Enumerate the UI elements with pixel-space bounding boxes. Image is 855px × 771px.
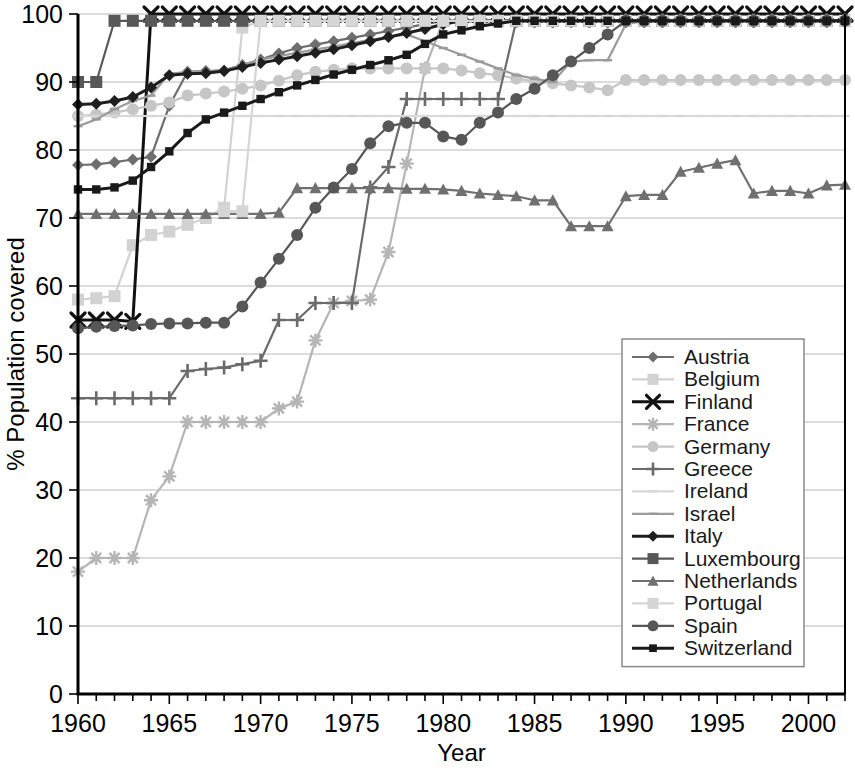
marker-switzerland: [366, 61, 374, 69]
marker-switzerland: [129, 176, 137, 184]
marker-luxembourg: [200, 15, 212, 27]
marker-germany: [784, 74, 796, 86]
marker-ireland: [530, 115, 539, 117]
marker-austria: [127, 154, 139, 166]
marker-portugal: [309, 15, 321, 27]
y-tick-label-20: 20: [35, 544, 63, 572]
marker-israel: [512, 74, 521, 76]
y-tick-label-70: 70: [35, 204, 63, 232]
marker-germany: [766, 74, 778, 86]
marker-greece: [473, 92, 487, 106]
marker-ireland: [329, 115, 338, 117]
chart-container: 196019651970197519801985199019952000 010…: [0, 0, 855, 771]
marker-switzerland: [530, 17, 538, 25]
marker-ireland: [256, 115, 265, 117]
marker-ireland: [603, 115, 612, 117]
marker-germany: [693, 74, 705, 86]
marker-switzerland: [256, 95, 264, 103]
marker-italy: [346, 39, 358, 51]
legend-marker-france: [647, 418, 660, 431]
marker-spain: [309, 202, 321, 214]
marker-ireland: [347, 115, 356, 117]
marker-germany: [456, 64, 468, 76]
marker-israel: [147, 94, 156, 96]
marker-luxembourg: [163, 15, 175, 27]
marker-germany: [145, 100, 157, 112]
marker-belgium: [109, 290, 121, 302]
marker-germany: [255, 79, 267, 91]
marker-netherlands: [729, 154, 741, 165]
marker-france: [162, 469, 176, 483]
marker-switzerland: [403, 51, 411, 59]
marker-luxembourg: [127, 15, 139, 27]
marker-portugal: [346, 15, 358, 27]
y-axis-title: % Population covered: [2, 237, 29, 470]
y-tick-label-80: 80: [35, 136, 63, 164]
marker-france: [363, 293, 377, 307]
x-tick-label-1980: 1980: [415, 709, 471, 737]
marker-switzerland: [329, 70, 337, 78]
marker-germany: [802, 74, 814, 86]
marker-switzerland: [603, 17, 611, 25]
x-axis-title: Year: [437, 739, 486, 766]
marker-spain: [547, 69, 559, 81]
marker-germany: [401, 62, 413, 74]
marker-switzerland: [512, 17, 520, 25]
marker-switzerland: [348, 66, 356, 74]
marker-israel: [530, 77, 539, 79]
marker-germany: [638, 74, 650, 86]
marker-france: [254, 415, 268, 429]
marker-spain: [90, 321, 102, 333]
marker-france: [381, 245, 395, 259]
marker-germany: [218, 86, 230, 98]
marker-belgium: [90, 292, 102, 304]
marker-france: [89, 551, 103, 565]
legend-label-finland: Finland: [684, 390, 753, 413]
marker-germany: [200, 88, 212, 100]
marker-italy: [200, 67, 212, 79]
marker-germany: [583, 81, 595, 93]
marker-ireland: [311, 115, 320, 117]
marker-belgium: [163, 226, 175, 238]
marker-spain: [419, 117, 431, 129]
legend-marker-germany: [648, 441, 659, 452]
marker-spain: [510, 93, 522, 105]
marker-israel: [110, 108, 119, 110]
y-tick-label-50: 50: [35, 340, 63, 368]
marker-belgium: [145, 229, 157, 241]
marker-portugal: [437, 15, 449, 27]
marker-switzerland: [823, 17, 831, 25]
marker-greece: [436, 92, 450, 106]
line-chart: 196019651970197519801985199019952000 010…: [0, 0, 855, 771]
marker-france: [217, 415, 231, 429]
marker-austria: [90, 158, 102, 170]
marker-luxembourg: [109, 15, 121, 27]
marker-germany: [474, 67, 486, 79]
marker-luxembourg: [145, 15, 157, 27]
marker-spain: [382, 120, 394, 132]
marker-spain: [602, 28, 614, 40]
marker-portugal: [255, 15, 267, 27]
legend-marker-ireland: [649, 490, 658, 492]
marker-switzerland: [768, 17, 776, 25]
marker-spain: [218, 317, 230, 329]
marker-portugal: [382, 15, 394, 27]
marker-israel: [603, 59, 612, 61]
marker-italy: [382, 31, 394, 43]
marker-ireland: [713, 115, 722, 117]
marker-ireland: [585, 115, 594, 117]
marker-portugal: [291, 15, 303, 27]
legend-marker-switzerland: [649, 644, 657, 652]
marker-france: [126, 551, 140, 565]
marker-germany: [565, 79, 577, 91]
marker-germany: [273, 75, 285, 87]
marker-germany: [419, 62, 431, 74]
marker-germany: [182, 90, 194, 102]
legend-label-italy: Italy: [684, 524, 723, 547]
marker-switzerland: [202, 115, 210, 123]
marker-germany: [437, 62, 449, 74]
marker-switzerland: [494, 19, 502, 27]
marker-spain: [529, 83, 541, 95]
marker-ireland: [640, 115, 649, 117]
marker-israel: [585, 59, 594, 61]
